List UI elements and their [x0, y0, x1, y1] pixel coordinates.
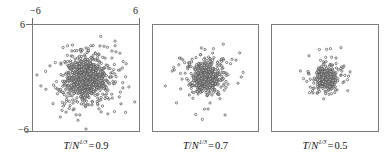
caption-equals: = — [207, 140, 215, 151]
caption-exponent: 1/3 — [79, 138, 87, 145]
y-axis-label-min: −6 — [18, 125, 29, 135]
caption-value: 0.9 — [95, 140, 108, 151]
x-axis-label-max: 6 — [133, 6, 138, 16]
panel-caption-1: T/N1/3=0.7 — [152, 136, 259, 152]
figure-root: −6 6 6 −6 T/N1/3=0.9 T/N1/3=0.7 T/N1/3=0… — [0, 0, 391, 158]
panel-caption-2: T/N1/3=0.5 — [271, 136, 379, 152]
caption-exponent: 1/3 — [318, 138, 326, 145]
scatter-plot-1 — [153, 25, 258, 131]
x-axis-label-min: −6 — [30, 6, 41, 16]
caption-var-n: N — [192, 140, 199, 151]
panel-caption-0: T/N1/3=0.9 — [32, 136, 140, 152]
caption-exponent: 1/3 — [199, 138, 207, 145]
scatter-panel-1 — [152, 24, 259, 132]
scatter-plot-0 — [33, 25, 139, 131]
y-axis-label-max: 6 — [20, 20, 25, 30]
scatter-panel-2 — [271, 24, 379, 132]
scatter-plot-2 — [272, 25, 378, 131]
caption-value: 0.5 — [334, 140, 347, 151]
scatter-panel-0 — [32, 24, 140, 132]
caption-value: 0.7 — [215, 140, 228, 151]
